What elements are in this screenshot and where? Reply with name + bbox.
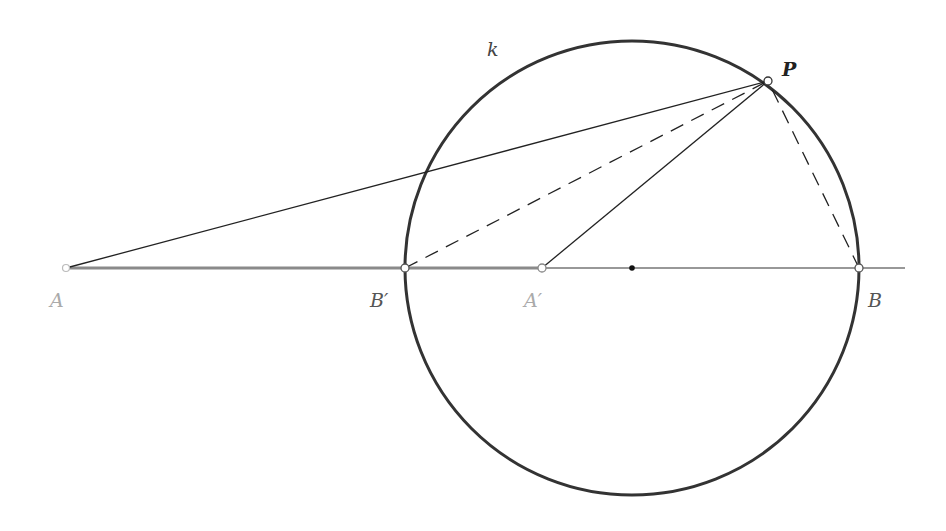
point-Aprime — [538, 264, 546, 272]
label-Bprime: B′ — [369, 289, 389, 311]
segment-Bprime-P — [405, 81, 768, 268]
label-A: A — [48, 289, 64, 311]
segment-Aprime-P — [542, 81, 768, 268]
label-B: B — [867, 289, 882, 311]
point-center — [629, 265, 635, 271]
label-P: P — [781, 58, 797, 80]
point-B — [855, 264, 863, 272]
point-Bprime — [401, 264, 409, 272]
label-k: k — [487, 38, 499, 60]
label-Aprime: A′ — [522, 289, 543, 311]
segment-A-P — [66, 81, 768, 268]
segment-B-P — [768, 81, 859, 268]
point-A — [63, 265, 70, 272]
diagram-canvas: k P A B′ A′ B — [0, 0, 946, 531]
point-P — [764, 77, 772, 85]
